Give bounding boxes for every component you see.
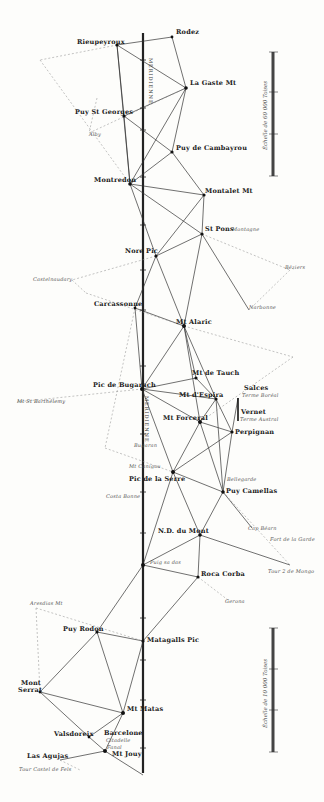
station-label: Citadelle bbox=[106, 737, 131, 743]
station-label: Cap Béarn bbox=[248, 525, 277, 531]
station-label: Mt Jouy bbox=[112, 750, 142, 758]
station-label: Bugaran bbox=[134, 442, 157, 448]
station-label: Mt St Barthélemy bbox=[17, 398, 65, 404]
station-label: Las Agujas bbox=[27, 752, 68, 760]
station-label: Terme Boréal bbox=[242, 392, 279, 398]
station-label: Barcelone bbox=[104, 729, 143, 737]
station-label: Tour 2 de Mongo bbox=[268, 568, 314, 574]
station-label: Bellegarde bbox=[227, 476, 257, 482]
station-label: Puy Rodon bbox=[63, 625, 104, 633]
station-label: N.D. du Mont bbox=[158, 527, 209, 535]
station-label: Roca Corba bbox=[201, 570, 245, 578]
station-label: Puy de Cambayrou bbox=[176, 144, 247, 152]
meridian-label-top: MERIDIENNE bbox=[148, 58, 154, 105]
station-label: Carcassonne bbox=[94, 300, 142, 308]
station-label: Vernet bbox=[241, 408, 266, 416]
station-label: Mt de Tauch bbox=[192, 369, 239, 377]
scale-bottom-label: Échelle de 10 000 Toises bbox=[262, 659, 268, 728]
station-label: Mt d'Espira bbox=[179, 391, 223, 399]
station-label: Perpignan bbox=[235, 428, 274, 436]
station-label: Aresdias Mt bbox=[30, 600, 63, 606]
station-label: Montredon bbox=[94, 176, 136, 184]
station-label: Narbonne bbox=[249, 304, 276, 310]
station-label: Gerona bbox=[225, 598, 245, 604]
station-label: Rieupeyroux bbox=[77, 38, 125, 46]
station-label: Valsdoreix bbox=[54, 730, 94, 738]
scale-top-label: Échelle de 60 000 Toises bbox=[262, 81, 268, 150]
scale-top bbox=[269, 52, 278, 176]
station-label: St Pons bbox=[205, 225, 234, 233]
station-label: Mt Forceral bbox=[163, 414, 208, 422]
station-label: Salces bbox=[244, 384, 268, 392]
station-label: Puy Camellas bbox=[226, 487, 277, 495]
triangle-edges bbox=[40, 37, 290, 775]
station-label: Alby bbox=[89, 131, 101, 137]
station-label: Puy St Georges bbox=[75, 108, 133, 116]
station-label: Puig sa das bbox=[150, 559, 181, 565]
scale-bottom bbox=[269, 628, 278, 752]
station-label: Tour Castel de Fels bbox=[19, 766, 72, 772]
station-label: Mt Alaric bbox=[176, 318, 212, 326]
station-label: Montagne bbox=[232, 226, 259, 232]
station-label: Pic de la Serre bbox=[129, 475, 185, 483]
station-label: Béziers bbox=[285, 264, 305, 270]
station-label: Matagalls Pic bbox=[147, 636, 199, 644]
station-label: Serrat bbox=[18, 686, 42, 694]
station-label: Mt Canigou bbox=[129, 463, 161, 469]
station-label: Rodez bbox=[176, 28, 199, 36]
station-label: Mt Matas bbox=[127, 705, 163, 713]
station-label: Castelnaudary bbox=[33, 276, 72, 282]
station-label: Terme Austral bbox=[240, 416, 279, 422]
station-label: Nore Pic bbox=[125, 247, 158, 255]
station-label: La Gaste Mt bbox=[190, 79, 236, 87]
station-label: Fort de la Garde bbox=[270, 536, 315, 542]
station-label: Montalet Mt bbox=[205, 187, 253, 195]
station-label: Costa Bonne bbox=[106, 493, 140, 499]
station-label: Pic de Bugarach bbox=[93, 381, 156, 389]
meridian-label-mid: MERIDIENNE bbox=[144, 396, 150, 443]
